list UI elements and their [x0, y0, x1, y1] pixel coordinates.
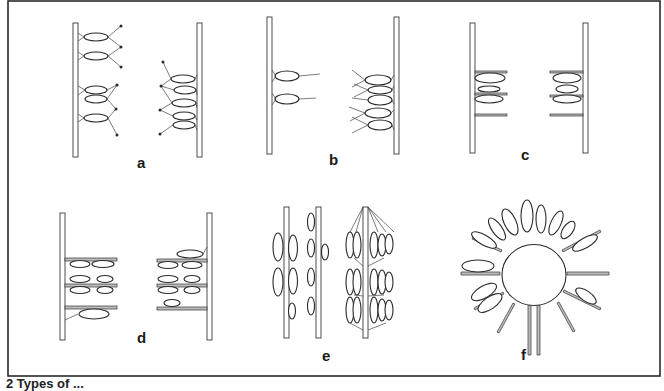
panel-a-left-cells	[78, 25, 123, 137]
panel-d: d	[60, 213, 212, 346]
panel-c-right-stem	[583, 23, 588, 153]
panel-a-right-cells	[159, 61, 198, 136]
panel-e-stem-2	[316, 207, 321, 338]
panel-e-cells-3	[346, 207, 394, 330]
panel-b-left-stem	[267, 17, 272, 154]
panel-d-right-cells	[157, 247, 207, 310]
panel-c-right-cells	[550, 71, 583, 116]
panel-e-stem-3	[363, 207, 368, 338]
panel-d-left-cells	[65, 258, 117, 320]
panel-e: e	[273, 207, 394, 364]
panel-a-label: a	[137, 154, 146, 171]
panel-c-label: c	[521, 146, 529, 163]
panel-d-label: d	[137, 329, 146, 346]
panel-f-label: f	[521, 346, 527, 363]
panel-e-stem-1	[284, 207, 289, 338]
panel-d-right-stem	[207, 213, 212, 340]
panel-c-left-cells	[475, 71, 507, 116]
panel-b-label: b	[329, 151, 338, 168]
panel-b-right-cells	[349, 70, 394, 133]
figure-caption: 2 Types of ...	[6, 376, 84, 391]
panel-d-left-stem	[60, 213, 65, 340]
panel-b: b	[267, 17, 399, 168]
panel-b-right-stem	[394, 17, 399, 154]
panel-b-left-cells	[272, 70, 320, 105]
panel-c: c	[470, 23, 588, 163]
panel-f-central-circle	[502, 245, 566, 306]
panel-c-left-stem	[470, 23, 475, 153]
panel-a-left-stem	[73, 23, 78, 157]
panel-f: f	[461, 200, 609, 363]
panel-a: a	[73, 23, 202, 171]
panel-e-label: e	[322, 347, 330, 364]
panel-a-right-stem	[197, 23, 202, 157]
